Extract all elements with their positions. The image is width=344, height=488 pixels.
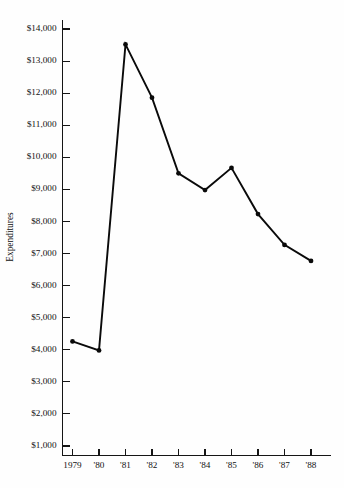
data-point-marker: '87: $7,270 xyxy=(282,242,287,247)
data-point-marker: '80: $3,980 xyxy=(97,348,102,353)
y-tick-label: $7,000 xyxy=(31,248,57,258)
y-tick-label: $10,000 xyxy=(27,151,57,161)
data-point-marker: '82: $11,860 xyxy=(150,95,155,100)
y-tick-label: $4,000 xyxy=(31,344,57,354)
x-tick-marks xyxy=(73,449,312,456)
y-tick-label: $12,000 xyxy=(27,87,57,97)
x-tick-label: '86 xyxy=(253,460,264,470)
x-tick-label: '84 xyxy=(200,460,211,470)
y-tick-label: $9,000 xyxy=(31,183,57,193)
y-tick-label: $3,000 xyxy=(31,376,57,386)
x-tick-label: '85 xyxy=(226,460,237,470)
y-tick-label: $11,000 xyxy=(27,119,57,129)
data-point-marker: '86: $8,230 xyxy=(256,212,261,217)
data-point-marker: '84: $8,980 xyxy=(203,188,208,193)
data-point-marker: 1979: $4,260 xyxy=(70,339,75,344)
x-tick-label: '80 xyxy=(94,460,105,470)
x-tick-label: 1979 xyxy=(63,460,82,470)
y-tick-label: $6,000 xyxy=(31,280,57,290)
x-tick-label: '88 xyxy=(306,460,317,470)
data-point-marker: '81: $13,520 xyxy=(123,42,128,47)
y-axis-title: Expenditures xyxy=(5,212,15,262)
data-point-marker: '85: $9,670 xyxy=(229,165,234,170)
y-tick-label: $2,000 xyxy=(31,408,57,418)
y-tick-label: $1,000 xyxy=(31,440,57,450)
x-tick-label: '87 xyxy=(279,460,290,470)
data-point-marker: '88: $6,770 xyxy=(309,259,314,264)
x-tick-label: '83 xyxy=(173,460,184,470)
data-point-marker: '83: $9,500 xyxy=(176,171,181,176)
y-tick-label: $14,000 xyxy=(27,23,57,33)
x-axis-group: 1979'80'81'82'83'84'85'86'87'88 xyxy=(63,449,332,470)
x-tick-label: '81 xyxy=(120,460,131,470)
data-series-expenditures: 1979: $4,260'80: $3,980'81: $13,520'82: … xyxy=(70,42,313,353)
y-tick-label: $5,000 xyxy=(31,312,57,322)
data-line-expenditures xyxy=(73,44,312,350)
x-tick-label: '82 xyxy=(147,460,158,470)
y-tick-labels: $1,000$2,000$3,000$4,000$5,000$6,000$7,0… xyxy=(27,23,57,450)
data-point-markers: 1979: $4,260'80: $3,980'81: $13,520'82: … xyxy=(70,42,313,353)
y-tick-label: $8,000 xyxy=(31,216,57,226)
y-tick-label: $13,000 xyxy=(27,55,57,65)
y-tick-marks xyxy=(63,29,70,446)
line-chart-figure: $1,000$2,000$3,000$4,000$5,000$6,000$7,0… xyxy=(0,0,344,488)
y-axis-title-group: Expenditures xyxy=(5,212,15,262)
chart-canvas: $1,000$2,000$3,000$4,000$5,000$6,000$7,0… xyxy=(0,0,344,488)
y-axis-group: $1,000$2,000$3,000$4,000$5,000$6,000$7,0… xyxy=(27,20,70,456)
x-tick-labels: 1979'80'81'82'83'84'85'86'87'88 xyxy=(63,460,317,470)
